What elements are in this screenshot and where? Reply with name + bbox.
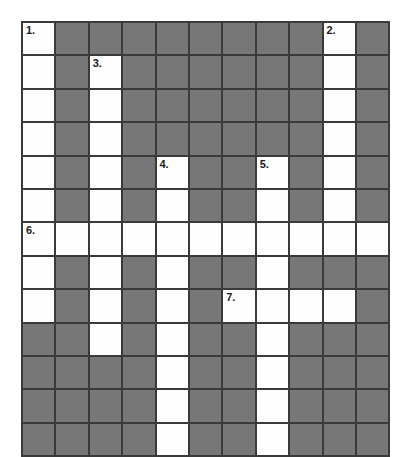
crossword-cell-block	[357, 157, 390, 190]
crossword-cell-open[interactable]	[23, 157, 56, 190]
crossword-cell-open[interactable]	[23, 290, 56, 323]
crossword-cell-open[interactable]	[223, 223, 256, 256]
clue-number: 1.	[26, 24, 35, 38]
crossword-cell-open[interactable]	[23, 56, 56, 89]
crossword-cell-block	[190, 357, 223, 390]
crossword-cell-block	[357, 424, 390, 457]
crossword-cell-open[interactable]	[157, 257, 190, 290]
crossword-cell-open[interactable]	[56, 223, 89, 256]
crossword-cell-open[interactable]: 2.	[324, 23, 357, 56]
crossword-cell-open[interactable]	[157, 223, 190, 256]
crossword-cell-block	[123, 290, 156, 323]
crossword-cell-open[interactable]	[257, 357, 290, 390]
crossword-cell-open[interactable]	[257, 324, 290, 357]
crossword-cell-block	[56, 324, 89, 357]
crossword-cell-open[interactable]	[123, 223, 156, 256]
clue-number: 3.	[93, 57, 102, 71]
crossword-cell-block	[56, 190, 89, 223]
crossword-cell-block	[157, 56, 190, 89]
crossword-cell-open[interactable]	[157, 290, 190, 323]
crossword-grid[interactable]: 1.2.3.4.5.6.7.	[21, 21, 390, 457]
crossword-cell-block	[90, 357, 123, 390]
crossword-cell-open[interactable]	[357, 223, 390, 256]
crossword-cell-block	[56, 90, 89, 123]
crossword-cell-block	[324, 357, 357, 390]
crossword-cell-block	[357, 190, 390, 223]
clue-number: 5.	[260, 158, 269, 172]
crossword-cell-open[interactable]	[290, 223, 323, 256]
crossword-cell-block	[223, 157, 256, 190]
crossword-cell-block	[257, 123, 290, 156]
crossword-cell-open[interactable]	[90, 123, 123, 156]
crossword-cell-block	[290, 357, 323, 390]
crossword-cell-open[interactable]	[324, 157, 357, 190]
crossword-cell-open[interactable]	[90, 157, 123, 190]
crossword-cell-open[interactable]	[90, 190, 123, 223]
crossword-cell-block	[123, 23, 156, 56]
crossword-cell-open[interactable]	[90, 324, 123, 357]
crossword-cell-open[interactable]: 5.	[257, 157, 290, 190]
crossword-cell-open[interactable]	[257, 257, 290, 290]
crossword-cell-open[interactable]	[324, 290, 357, 323]
crossword-cell-block	[223, 357, 256, 390]
crossword-cell-block	[190, 190, 223, 223]
crossword-cell-open[interactable]: 6.	[23, 223, 56, 256]
crossword-cell-open[interactable]	[90, 290, 123, 323]
crossword-cell-open[interactable]	[324, 223, 357, 256]
crossword-cell-block	[123, 324, 156, 357]
crossword-cell-block	[90, 390, 123, 423]
crossword-cell-block	[123, 90, 156, 123]
crossword-cell-open[interactable]	[157, 390, 190, 423]
crossword-cell-block	[123, 257, 156, 290]
crossword-cell-open[interactable]	[257, 190, 290, 223]
crossword-cell-block	[90, 23, 123, 56]
crossword-cell-block	[190, 424, 223, 457]
crossword-cell-open[interactable]	[324, 190, 357, 223]
crossword-cell-open[interactable]	[90, 257, 123, 290]
crossword-cell-open[interactable]	[157, 424, 190, 457]
crossword-cell-block	[56, 390, 89, 423]
crossword-cell-block	[56, 424, 89, 457]
crossword-cell-block	[190, 56, 223, 89]
crossword-cell-open[interactable]	[290, 290, 323, 323]
crossword-cell-block	[223, 390, 256, 423]
clue-number: 7.	[226, 291, 235, 305]
crossword-cell-block	[290, 56, 323, 89]
crossword-cell-open[interactable]	[23, 123, 56, 156]
crossword-cell-open[interactable]	[257, 390, 290, 423]
crossword-cell-open[interactable]	[157, 324, 190, 357]
crossword-cell-block	[123, 390, 156, 423]
crossword-cell-open[interactable]	[257, 424, 290, 457]
crossword-cell-open[interactable]	[23, 90, 56, 123]
crossword-cell-open[interactable]	[190, 223, 223, 256]
crossword-cell-block	[290, 23, 323, 56]
crossword-cell-block	[56, 257, 89, 290]
crossword-cell-open[interactable]	[157, 190, 190, 223]
crossword-cell-open[interactable]: 1.	[23, 23, 56, 56]
crossword-cell-block	[90, 424, 123, 457]
crossword-cell-block	[324, 324, 357, 357]
crossword-cell-open[interactable]	[90, 223, 123, 256]
crossword-cell-open[interactable]	[324, 56, 357, 89]
crossword-cell-block	[357, 324, 390, 357]
crossword-cell-open[interactable]	[23, 190, 56, 223]
crossword-cell-open[interactable]: 7.	[223, 290, 256, 323]
crossword-cell-block	[157, 123, 190, 156]
crossword-cell-open[interactable]	[23, 257, 56, 290]
crossword-cell-block	[56, 23, 89, 56]
crossword-cell-block	[190, 90, 223, 123]
crossword-cell-open[interactable]	[90, 90, 123, 123]
crossword-cell-block	[190, 290, 223, 323]
crossword-cell-open[interactable]	[324, 123, 357, 156]
crossword-cell-open[interactable]: 3.	[90, 56, 123, 89]
crossword-cell-block	[157, 90, 190, 123]
crossword-cell-open[interactable]	[257, 223, 290, 256]
crossword-cell-block	[324, 390, 357, 423]
crossword-cell-block	[190, 324, 223, 357]
crossword-cell-open[interactable]: 4.	[157, 157, 190, 190]
crossword-cell-block	[223, 190, 256, 223]
crossword-cell-open[interactable]	[257, 290, 290, 323]
crossword-cell-block	[23, 424, 56, 457]
crossword-cell-open[interactable]	[157, 357, 190, 390]
crossword-cell-open[interactable]	[324, 90, 357, 123]
